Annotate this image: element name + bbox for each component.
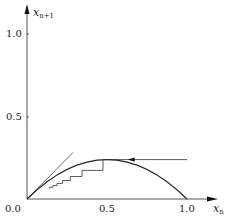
y-axis-arrow-icon xyxy=(25,4,30,14)
cobweb-arrow-icon xyxy=(128,157,135,161)
y-tick-label-1: 1.0 xyxy=(6,28,22,39)
origin-label: 0.0 xyxy=(5,203,21,214)
x-tick-label-05: 0.5 xyxy=(99,203,115,214)
cobweb-path xyxy=(50,160,187,189)
x-tick-label-1: 1.0 xyxy=(179,203,195,214)
y-axis-label: xn+1 xyxy=(33,6,54,20)
y-tick-label-05: 0.5 xyxy=(6,111,22,122)
x-axis-label: xn xyxy=(213,202,224,216)
cobweb-chart: 1.0 0.5 0.0 0.5 1.0 xn+1 xn xyxy=(0,0,236,224)
map-curve xyxy=(27,160,187,199)
x-axis-arrow-icon xyxy=(207,197,218,202)
